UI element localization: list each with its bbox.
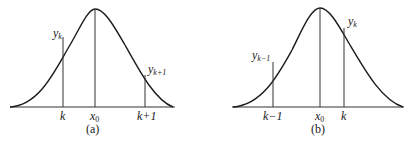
xlabel-k-b: k (341, 109, 347, 123)
bell-curve-a (10, 9, 173, 107)
caption-b: (b) (311, 122, 325, 136)
xlabel-k1-a: k+1 (137, 109, 156, 123)
panel-b: yk−1 yk k−1 x0 k (b) (232, 8, 404, 136)
diagram-canvas: yk yk+1 k x0 k+1 (a) yk−1 yk k−1 x0 k (b… (0, 0, 410, 144)
caption-a: (a) (86, 122, 99, 136)
xlabel-k-a: k (60, 109, 66, 123)
label-yk-minus-1-b: yk−1 (251, 48, 270, 63)
label-yk-b: yk (347, 14, 357, 29)
label-yk1-a: yk+1 (147, 62, 166, 77)
panel-a: yk yk+1 k x0 k+1 (a) (10, 9, 175, 136)
label-yk-a: yk (52, 26, 62, 41)
xlabel-k-minus-1-b: k−1 (263, 109, 282, 123)
